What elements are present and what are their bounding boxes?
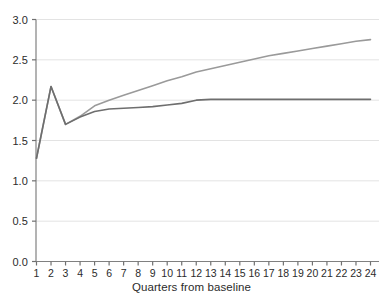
- x-tick-label: 8: [135, 268, 141, 279]
- x-tick-label: 1: [34, 268, 40, 279]
- x-tick-label: 18: [278, 268, 290, 279]
- x-tick-label: 7: [121, 268, 127, 279]
- x-tick-label: 16: [248, 268, 260, 279]
- x-tick-label: 12: [190, 268, 202, 279]
- x-tick-label: 20: [307, 268, 319, 279]
- x-tick-label: 13: [205, 268, 217, 279]
- plot-figure: 0.00.51.01.52.02.53.0 123456789101112131…: [0, 0, 383, 303]
- x-tick-label: 17: [263, 268, 275, 279]
- x-tick-label: 2: [48, 268, 54, 279]
- x-tick-label: 19: [292, 268, 304, 279]
- x-axis-title: Quarters from baseline: [0, 281, 383, 293]
- x-tick-label: 14: [219, 268, 231, 279]
- x-tick-label: 3: [63, 268, 69, 279]
- x-tick-label: 11: [176, 268, 187, 279]
- x-axis-tick-labels: 123456789101112131415161718192021222324: [0, 0, 383, 303]
- x-tick-label: 15: [234, 268, 246, 279]
- x-tick-label: 4: [77, 268, 83, 279]
- x-tick-label: 10: [161, 268, 173, 279]
- x-tick-label: 24: [365, 268, 377, 279]
- line-chart: 0.00.51.01.52.02.53.0 123456789101112131…: [0, 0, 383, 303]
- x-tick-label: 6: [106, 268, 112, 279]
- x-tick-label: 23: [350, 268, 362, 279]
- x-tick-label: 21: [321, 268, 333, 279]
- x-tick-label: 5: [92, 268, 98, 279]
- x-tick-label: 22: [336, 268, 348, 279]
- x-tick-label: 9: [150, 268, 156, 279]
